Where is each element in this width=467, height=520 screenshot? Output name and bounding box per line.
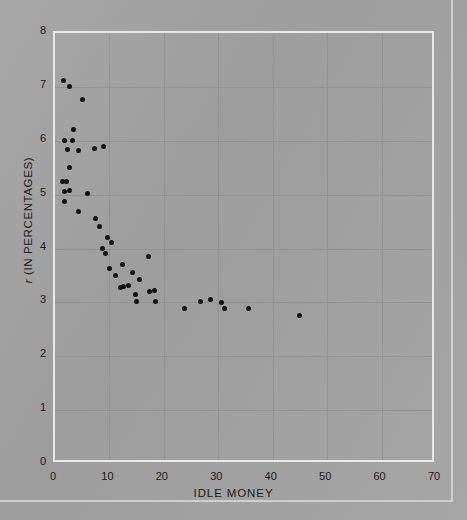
y-axis-tick-label: 2 (20, 347, 46, 359)
y-gridline (55, 249, 432, 250)
y-axis-tick-label: 7 (20, 78, 46, 90)
y-axis-tick-label: 5 (20, 186, 46, 198)
data-point (92, 146, 97, 151)
data-point (97, 224, 102, 229)
y-axis-tick-label: 3 (20, 293, 46, 305)
data-point (61, 78, 66, 83)
data-point (101, 144, 106, 149)
data-point (133, 292, 138, 297)
data-point (76, 148, 81, 153)
data-point (71, 127, 76, 132)
data-point (146, 254, 151, 259)
y-gridline (55, 87, 432, 88)
x-axis-tick-label: 0 (33, 470, 73, 482)
data-point (100, 246, 105, 251)
x-gridline (109, 33, 110, 460)
data-point (152, 288, 157, 293)
x-gridline (218, 33, 219, 460)
data-point (182, 306, 187, 311)
y-axis-tick-label: 0 (20, 455, 46, 467)
data-point (219, 300, 224, 305)
data-point (107, 266, 112, 271)
data-point (80, 97, 85, 102)
y-axis-tick-label: 8 (20, 24, 46, 36)
data-point (62, 199, 67, 204)
data-point (93, 216, 98, 221)
y-gridline (55, 302, 432, 303)
data-point (130, 270, 135, 275)
data-point (76, 209, 81, 214)
data-point (222, 306, 227, 311)
data-point (105, 235, 110, 240)
y-gridline (55, 356, 432, 357)
y-gridline (55, 195, 432, 196)
y-axis-tick-label: 6 (20, 132, 46, 144)
x-axis-tick-label: 50 (305, 470, 345, 482)
y-axis-label-symbol: r (22, 279, 34, 283)
x-axis-tick-label: 70 (414, 470, 454, 482)
data-point (113, 273, 118, 278)
data-point (70, 138, 75, 143)
data-point (62, 138, 67, 143)
data-point (297, 313, 302, 318)
y-gridline (55, 410, 432, 411)
data-point (109, 240, 114, 245)
data-point (67, 165, 72, 170)
x-axis-tick-label: 60 (360, 470, 400, 482)
data-point (246, 306, 251, 311)
x-gridline (382, 33, 383, 460)
x-axis-tick-label: 20 (142, 470, 182, 482)
data-point (67, 188, 72, 193)
y-axis-label: r (IN PERCENTAGES) (22, 130, 34, 310)
data-point (153, 299, 158, 304)
x-axis-label: IDLE MONEY (0, 487, 467, 499)
x-axis-tick-label: 40 (251, 470, 291, 482)
data-point (134, 299, 139, 304)
y-axis-label-text: (IN PERCENTAGES) (22, 157, 34, 279)
data-point (103, 251, 108, 256)
y-gridline (55, 141, 432, 142)
x-gridline (273, 33, 274, 460)
x-axis-tick-label: 10 (87, 470, 127, 482)
data-point (126, 283, 131, 288)
data-point (64, 179, 69, 184)
scatter-plot-figure: IDLE MONEY r (IN PERCENTAGES) 0102030405… (0, 0, 467, 520)
x-gridline (327, 33, 328, 460)
y-axis-tick-label: 4 (20, 240, 46, 252)
data-point (120, 262, 125, 267)
x-axis-tick-label: 30 (196, 470, 236, 482)
data-point (137, 277, 142, 282)
plot-area (53, 31, 434, 462)
x-gridline (164, 33, 165, 460)
data-point (67, 84, 72, 89)
y-axis-tick-label: 1 (20, 401, 46, 413)
data-point (65, 147, 70, 152)
